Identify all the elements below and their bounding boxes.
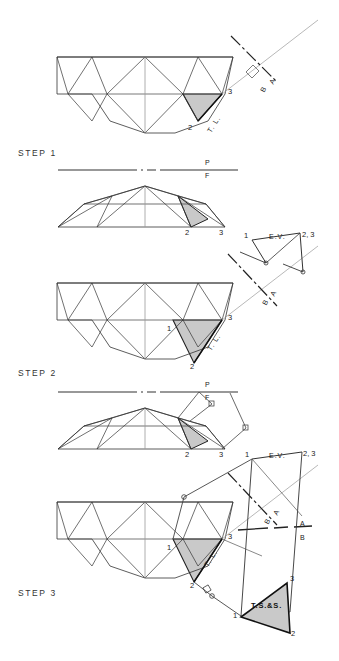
step2-top-point-1: 1	[167, 325, 171, 333]
step2-front-point-2: 2	[185, 451, 189, 459]
fold-line-ab-step3-seg1	[238, 528, 268, 530]
step2-edge-view-label: E.V.	[269, 233, 286, 240]
true-size-point-3: 3	[290, 575, 294, 583]
step3-edge-view-label: E.V.	[269, 452, 286, 459]
step1-fold-label-p: P	[205, 159, 211, 166]
aux-edge-view-step3	[241, 452, 302, 616]
step1-top-point-3: 3	[228, 88, 232, 96]
step1-front-point-2: 2	[185, 229, 189, 237]
fold-line-ba-step2	[228, 254, 277, 306]
step3-top-point-2: 2	[190, 582, 194, 590]
step1-top-point-2: 2	[188, 124, 192, 132]
step3-fold2-label-b: B	[300, 534, 306, 541]
step2-front-point-3: 3	[219, 451, 223, 459]
step3-aux-point-1: 1	[245, 451, 249, 459]
true-size-point-2: 2	[291, 630, 295, 638]
step3-top-point-3: 3	[228, 533, 232, 541]
projector-handles-step3	[173, 459, 262, 616]
step2-fold-label-f: F	[205, 394, 210, 401]
drawing-sheet: STEP 1 3 2 T. L. A B P F 2 3 STEP 2 3 2 …	[0, 0, 339, 661]
fold-line-ab-step3-seg2	[274, 527, 288, 528]
projector-ray-step2	[222, 246, 318, 320]
step2-top-point-2: 2	[190, 363, 194, 371]
step1-front-point-3: 3	[219, 229, 223, 237]
step3-aux-point-23: 2, 3	[303, 450, 316, 458]
fold-line-ba-step3	[228, 473, 277, 525]
step2-aux-point-1: 1	[244, 232, 248, 240]
step3-top-point-1: 1	[167, 544, 171, 552]
step2-fold-label-p: P	[205, 381, 211, 388]
projector-ray-step3	[222, 465, 318, 539]
step2-top-point-3: 3	[228, 314, 232, 322]
step3-fold2-label-a: A	[300, 520, 306, 527]
step-2-label: STEP 2	[18, 369, 57, 378]
true-size-point-1: 1	[233, 612, 237, 620]
step-3-label: STEP 3	[18, 589, 57, 598]
true-size-label: T.S.&S.	[251, 602, 282, 610]
step-1-label: STEP 1	[18, 149, 57, 158]
fold-line-ab-step1	[231, 36, 277, 82]
step1-fold-label-f: F	[205, 172, 210, 179]
step2-group	[57, 233, 318, 449]
step2-aux-point-23: 2, 3	[302, 231, 315, 239]
